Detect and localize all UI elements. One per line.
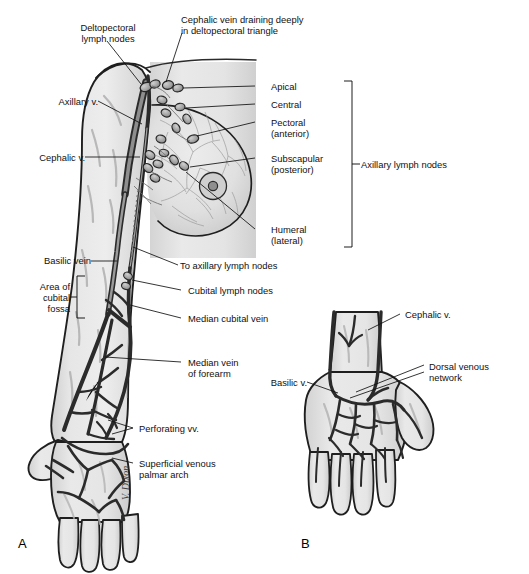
panel-letter-a: A [18,536,27,551]
svg-text:V. Dixon: V. Dixon [120,466,131,500]
label-subscapular-posterior: Subscapular (posterior) [271,153,355,175]
artist-signature: V. Dixon [120,466,131,500]
label-basilic-vein: Basilic vein [8,255,91,266]
anatomy-figure: V. Dixon Deltopectoral lymph nodes Cepha… [0,0,529,574]
label-cephalic-v-panel-b: Cephalic v. [405,309,495,320]
label-axillary-lymph-nodes: Axillary lymph nodes [361,159,521,170]
label-central: Central [271,99,351,110]
label-deltopectoral-lymph-nodes: Deltopectoral lymph nodes [52,22,164,44]
label-cephalic-vein-draining: Cephalic vein draining deeply in deltope… [181,14,361,36]
label-superficial-venous-palmar-arch: Superficial venous palmar arch [139,458,269,480]
label-to-axillary-lymph-nodes: To axillary lymph nodes [180,260,330,271]
label-dorsal-venous-network: Dorsal venous network [429,361,529,383]
panel-b-illustration [305,312,434,515]
label-basilic-v-panel-b: Basilic v. [245,377,307,388]
label-median-cubital-vein: Median cubital vein [188,313,328,324]
label-apical: Apical [271,81,351,92]
label-humeral-lateral: Humeral (lateral) [271,224,351,246]
label-pectoral-anterior: Pectoral (anterior) [271,117,351,139]
label-area-of-cubital-fossa: Area of cubital fossa [2,281,70,315]
label-perforating-vv: Perforating vv. [139,423,259,434]
hand-panel-a [28,440,138,572]
label-cubital-lymph-nodes: Cubital lymph nodes [188,285,328,296]
label-cephalic-v: Cephalic v. [10,152,85,163]
panel-letter-b: B [301,536,310,551]
label-axillary-v: Axillary v. [18,96,98,107]
